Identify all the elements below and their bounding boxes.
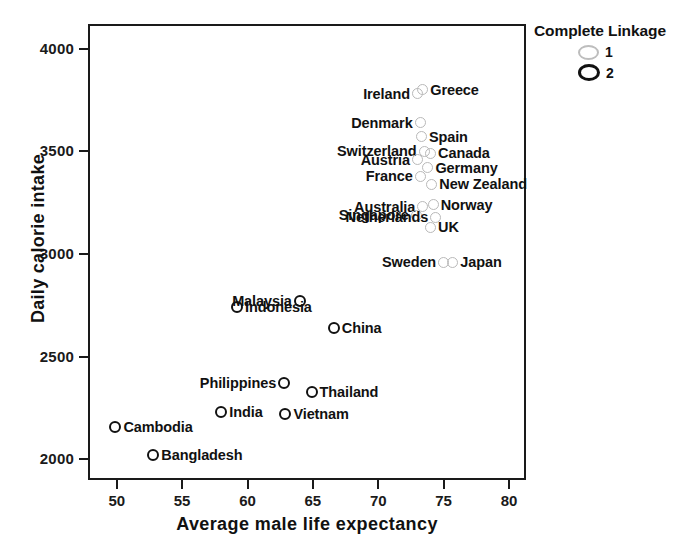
x-axis-tick-label: 75 <box>424 492 464 509</box>
point-label-netherlands: Netherlands <box>346 209 429 225</box>
y-axis-tick <box>79 253 88 255</box>
open-circle-icon <box>578 64 600 81</box>
x-axis-tick-label: 80 <box>489 492 529 509</box>
x-axis-tick <box>312 480 314 489</box>
data-point-canada[interactable] <box>425 148 436 159</box>
point-label-new-zealand: New Zealand <box>439 176 527 192</box>
point-label-indonesia: Indonesia <box>245 299 312 315</box>
point-label-sweden: Sweden <box>382 254 436 270</box>
scatter-plot-figure: 2000250030003500400050556065707580Irelan… <box>0 0 695 558</box>
data-point-japan[interactable] <box>447 257 458 268</box>
point-label-ireland: Ireland <box>363 86 410 102</box>
y-axis-tick-label: 4000 <box>14 40 74 57</box>
x-axis-tick <box>181 480 183 489</box>
y-axis-title: Daily calorie intake <box>28 109 49 369</box>
point-label-cambodia: Cambodia <box>123 419 192 435</box>
y-axis-tick-label: 2000 <box>14 450 74 467</box>
y-axis-tick <box>79 458 88 460</box>
point-label-india: India <box>229 404 262 420</box>
legend-title: Complete Linkage <box>534 22 694 40</box>
point-label-japan: Japan <box>460 254 501 270</box>
legend-item-label: 2 <box>606 65 614 81</box>
point-label-philippines: Philippines <box>200 375 276 391</box>
point-label-france: France <box>366 168 413 184</box>
point-label-austria: Austria <box>361 152 410 168</box>
x-axis-tick-label: 55 <box>162 492 202 509</box>
data-point-cambodia[interactable] <box>109 421 121 433</box>
x-axis-tick <box>377 480 379 489</box>
x-axis-tick-label: 50 <box>97 492 137 509</box>
point-label-uk: UK <box>438 219 459 235</box>
x-axis-tick-label: 65 <box>293 492 333 509</box>
x-axis-tick <box>508 480 510 489</box>
y-axis-tick <box>79 48 88 50</box>
open-circle-icon <box>578 45 599 60</box>
point-label-denmark: Denmark <box>351 115 412 131</box>
data-point-netherlands[interactable] <box>430 212 441 223</box>
data-point-austria[interactable] <box>412 154 423 165</box>
point-label-vietnam: Vietnam <box>293 406 348 422</box>
data-point-new-zealand[interactable] <box>426 179 437 190</box>
x-axis-tick <box>443 480 445 489</box>
y-axis-tick <box>79 356 88 358</box>
data-point-thailand[interactable] <box>306 386 318 398</box>
data-point-denmark[interactable] <box>415 117 426 128</box>
point-label-china: China <box>342 320 382 336</box>
legend-item-label: 1 <box>605 44 613 60</box>
x-axis-title: Average male life expectancy <box>88 514 526 535</box>
legend-item-cluster-2[interactable]: 2 <box>534 64 694 81</box>
point-label-thailand: Thailand <box>320 384 379 400</box>
point-label-bangladesh: Bangladesh <box>161 447 242 463</box>
x-axis-tick <box>247 480 249 489</box>
point-label-spain: Spain <box>429 129 468 145</box>
x-axis-tick-label: 70 <box>358 492 398 509</box>
legend: Complete Linkage 1 2 <box>534 22 694 81</box>
point-label-greece: Greece <box>430 82 479 98</box>
data-point-china[interactable] <box>328 322 340 334</box>
y-axis-tick <box>79 150 88 152</box>
data-point-norway[interactable] <box>428 199 439 210</box>
x-axis-tick-label: 60 <box>228 492 268 509</box>
data-point-france[interactable] <box>415 171 426 182</box>
point-label-germany: Germany <box>435 160 497 176</box>
point-label-norway: Norway <box>441 197 493 213</box>
legend-item-cluster-1[interactable]: 1 <box>534 44 694 60</box>
x-axis-tick <box>116 480 118 489</box>
